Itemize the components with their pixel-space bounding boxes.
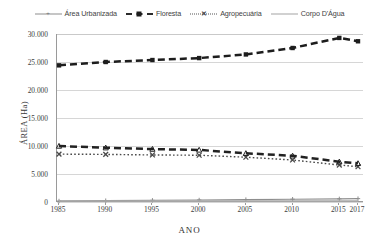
data-point-marker — [356, 196, 360, 200]
data-point-marker — [56, 143, 61, 148]
x-tick-label: 1985 — [51, 205, 66, 214]
data-point-marker — [103, 152, 108, 157]
plot-area — [56, 34, 363, 202]
x-tick-label: 2005 — [237, 205, 252, 214]
data-point-marker — [356, 39, 360, 43]
x-tick-label: 2000 — [191, 205, 206, 214]
legend-item-area-urbanizada[interactable]: + Área Urbanizada — [35, 9, 117, 18]
x-tick-label: 2015 — [331, 205, 346, 214]
legend-label-area-urbanizada: Área Urbanizada — [65, 9, 117, 18]
plus-marker-icon: + — [46, 10, 50, 17]
y-tick-label: 10.000 — [28, 142, 48, 151]
data-point-marker — [337, 36, 341, 40]
legend-label-floresta: Floresta — [156, 9, 181, 18]
x-tick-label: 1995 — [144, 205, 159, 214]
legend-item-agropecuaria[interactable]: ✕ Agropecuária — [190, 9, 262, 18]
data-point-marker — [197, 147, 202, 152]
legend-label-corpo-dagua: Corpo D'Água — [301, 9, 345, 18]
x-axis-ticks: 19851990199520002005201020152017 — [56, 205, 363, 221]
y-tick-label: 20.000 — [28, 86, 48, 95]
series-layer — [57, 34, 364, 202]
y-axis-ticks: 05.00010.00015.00020.00025.00030.000 — [0, 34, 52, 202]
data-point-marker — [197, 56, 201, 60]
y-tick-label: 0 — [44, 198, 48, 207]
data-point-marker — [104, 60, 108, 64]
x-marker-icon: ✕ — [201, 10, 207, 17]
legend-item-corpo-dagua[interactable]: Corpo D'Água — [271, 9, 345, 18]
x-tick-label: 2010 — [284, 205, 299, 214]
square-marker-icon — [137, 11, 142, 16]
x-tick-label: 2017 — [350, 205, 365, 214]
data-point-marker — [57, 63, 61, 67]
data-point-marker — [290, 46, 294, 50]
y-tick-label: 25.000 — [28, 58, 48, 67]
legend-item-floresta[interactable]: Floresta — [126, 9, 181, 18]
legend-swatch-area-urbanizada-icon: + — [35, 10, 62, 18]
gridline — [57, 202, 363, 203]
y-tick-label: 15.000 — [28, 114, 48, 123]
y-tick-label: 5.000 — [31, 170, 48, 179]
data-point-marker — [244, 52, 248, 56]
legend-swatch-corpo-dagua-icon — [271, 10, 298, 18]
legend-swatch-floresta-icon — [126, 10, 153, 18]
x-axis-title: ANO — [0, 225, 379, 235]
chart-legend: + Área Urbanizada Floresta ✕ Agropecuári… — [0, 9, 379, 18]
y-tick-label: 30.000 — [28, 30, 48, 39]
line-chart: + Área Urbanizada Floresta ✕ Agropecuári… — [0, 0, 379, 246]
x-tick-label: 1990 — [97, 205, 112, 214]
legend-swatch-agropecuaria-icon: ✕ — [190, 10, 217, 18]
data-point-marker — [57, 152, 62, 157]
legend-label-agropecuaria: Agropecuária — [220, 9, 262, 18]
data-point-marker — [150, 58, 154, 62]
